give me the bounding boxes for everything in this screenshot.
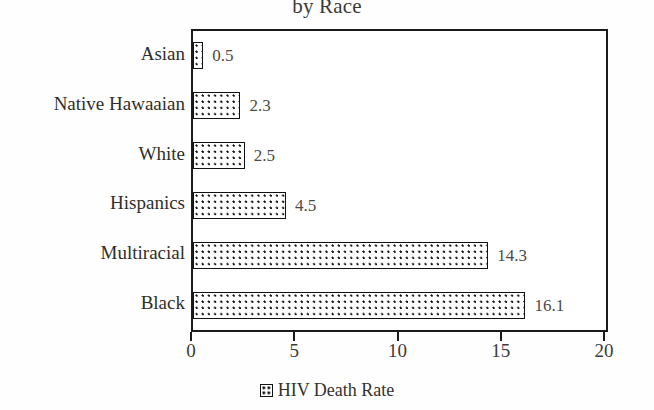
bar-row: 16.1 bbox=[193, 280, 606, 330]
y-axis-label-multiracial: Multiracial bbox=[0, 243, 185, 262]
x-axis: 05101520 bbox=[191, 332, 608, 366]
bar-value-white: 2.5 bbox=[254, 147, 275, 164]
bar-white bbox=[193, 142, 245, 169]
bar-black bbox=[193, 292, 525, 319]
chart-container: by Race Asian Native Hawaaian White Hisp… bbox=[0, 0, 654, 410]
y-axis-label-asian: Asian bbox=[0, 44, 185, 63]
bar-value-black: 16.1 bbox=[534, 297, 564, 314]
chart-title: by Race bbox=[0, 0, 654, 19]
y-axis-label-hispanics: Hispanics bbox=[0, 193, 185, 212]
x-axis-tick-label: 10 bbox=[388, 341, 407, 360]
bar-value-multiracial: 14.3 bbox=[497, 247, 527, 264]
y-axis-label-native-hawaaian: Native Hawaaian bbox=[0, 94, 185, 113]
bar-row: 2.3 bbox=[193, 81, 606, 131]
y-axis-label-black: Black bbox=[0, 293, 185, 312]
y-axis-label-white: White bbox=[0, 144, 185, 163]
bar-value-hispanics: 4.5 bbox=[295, 197, 316, 214]
legend-label-hiv-death-rate: HIV Death Rate bbox=[278, 381, 395, 399]
x-axis-tick-label: 0 bbox=[186, 341, 196, 360]
x-axis-tick-label: 20 bbox=[595, 341, 614, 360]
bar-multiracial bbox=[193, 242, 488, 269]
bar-value-asian: 0.5 bbox=[212, 47, 233, 64]
bar-row: 14.3 bbox=[193, 230, 606, 280]
plot-area: 0.5 2.3 2.5 4.5 14.3 16.1 bbox=[191, 29, 608, 332]
bar-row: 0.5 bbox=[193, 31, 606, 81]
bar-native-hawaaian bbox=[193, 92, 240, 119]
bar-asian bbox=[193, 42, 203, 69]
legend: HIV Death Rate bbox=[0, 381, 654, 399]
bar-row: 2.5 bbox=[193, 131, 606, 181]
legend-swatch-icon bbox=[260, 384, 273, 397]
bar-row: 4.5 bbox=[193, 181, 606, 231]
bar-value-native-hawaaian: 2.3 bbox=[249, 97, 270, 114]
y-axis-category-labels: Asian Native Hawaaian White Hispanics Mu… bbox=[0, 29, 185, 332]
bar-hispanics bbox=[193, 192, 286, 219]
x-axis-tick-label: 15 bbox=[491, 341, 510, 360]
x-axis-tick-label: 5 bbox=[290, 341, 300, 360]
